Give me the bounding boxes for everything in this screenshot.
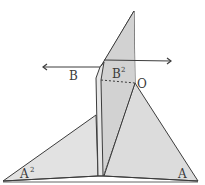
left-flap	[3, 115, 98, 181]
label-a2: A	[19, 167, 29, 181]
label-o: O	[137, 77, 147, 91]
label-b: B	[69, 69, 78, 83]
label-a2-sup: 2	[30, 166, 34, 174]
label-b2-sup: 2	[121, 66, 125, 74]
folded-paper-diagram: B B 2 O A 2 A	[0, 0, 205, 185]
label-a: A	[177, 167, 187, 181]
label-b2: B	[112, 67, 121, 81]
